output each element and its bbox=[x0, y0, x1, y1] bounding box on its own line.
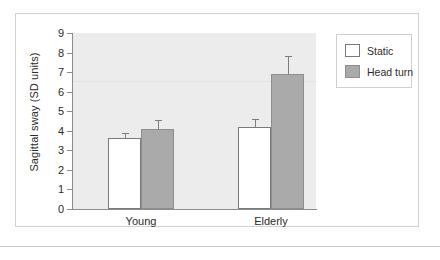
y-tick-label: 7 bbox=[46, 67, 64, 78]
legend-label-static: Static bbox=[367, 45, 393, 57]
error-bar-cap bbox=[252, 119, 259, 120]
y-tick-mark bbox=[67, 170, 72, 171]
y-tick-mark bbox=[67, 72, 72, 73]
legend-item-static[interactable]: Static bbox=[345, 42, 404, 59]
y-axis-line bbox=[72, 33, 73, 210]
bar-chart: Sagittal sway (SD units) 0123456789 Youn… bbox=[16, 14, 420, 228]
y-tick-label: 2 bbox=[46, 165, 64, 176]
error-bar-cap bbox=[122, 133, 129, 134]
y-axis-title: Sagittal sway (SD units) bbox=[28, 32, 40, 192]
y-tick-label: 4 bbox=[46, 126, 64, 137]
y-tick-mark bbox=[67, 189, 72, 190]
y-tick-label: 1 bbox=[46, 184, 64, 195]
bar-elderly-head-turn bbox=[271, 74, 304, 209]
y-tick-mark bbox=[67, 111, 72, 112]
y-tick-mark bbox=[67, 209, 72, 210]
y-tick-label: 6 bbox=[46, 87, 64, 98]
y-tick-mark bbox=[67, 92, 72, 93]
legend-label-head-turn: Head turn bbox=[367, 66, 413, 78]
bar-elderly-static bbox=[238, 127, 271, 209]
legend-swatch-static-icon bbox=[345, 44, 360, 57]
y-tick-label: 9 bbox=[46, 28, 64, 39]
error-bar-cap bbox=[155, 120, 162, 121]
x-axis-line bbox=[72, 209, 317, 210]
y-tick-label: 3 bbox=[46, 145, 64, 156]
y-tick-mark bbox=[67, 53, 72, 54]
figure-card: Sagittal sway (SD units) 0123456789 Youn… bbox=[15, 13, 419, 227]
bar-young-head-turn bbox=[141, 129, 174, 209]
bar-young-static bbox=[108, 138, 141, 209]
y-tick-label: 5 bbox=[46, 106, 64, 117]
x-axis-label-young: Young bbox=[96, 215, 186, 227]
error-bar-stem bbox=[288, 56, 289, 74]
error-bar-stem bbox=[158, 120, 159, 129]
bottom-divider bbox=[0, 246, 440, 247]
y-tick-label: 8 bbox=[46, 48, 64, 59]
error-bar-cap bbox=[285, 56, 292, 57]
legend-item-head-turn[interactable]: Head turn bbox=[345, 63, 404, 80]
legend: Static Head turn bbox=[336, 34, 412, 88]
error-bar-stem bbox=[255, 119, 256, 127]
y-tick-mark bbox=[67, 150, 72, 151]
y-tick-mark bbox=[67, 131, 72, 132]
y-tick-mark bbox=[67, 33, 72, 34]
y-tick-label: 0 bbox=[46, 204, 64, 215]
legend-swatch-head-turn-icon bbox=[345, 65, 360, 78]
x-axis-label-elderly: Elderly bbox=[226, 215, 316, 227]
